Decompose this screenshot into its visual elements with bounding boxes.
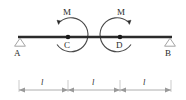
moment-arc-c [57, 18, 88, 52]
support-label-b: B [165, 49, 171, 58]
dimension-arrow-left-1 [68, 88, 74, 93]
point-marker-c [66, 35, 71, 40]
moment-label-d: M [117, 8, 125, 17]
moment-arrowhead-d [127, 20, 131, 24]
moment-label-c: M [63, 8, 71, 17]
dimension-arrow-right-1 [114, 88, 120, 93]
support-label-a: A [14, 49, 21, 58]
dimension-arrow-right-0 [62, 88, 68, 93]
support-a [15, 38, 26, 46]
beam-diagram-figure: M M C D A B l l l [0, 0, 186, 100]
point-marker-d [118, 35, 123, 40]
dimension-label-segment-a-c: l [41, 78, 43, 87]
dimension-label-segment-c-d: l [92, 78, 94, 87]
dimension-arrow-right-2 [165, 88, 171, 93]
dimension-arrow-left-0 [19, 88, 25, 93]
support-a-triangle [15, 38, 26, 46]
moment-arrowhead-c [57, 20, 61, 24]
dimension-label-segment-d-b: l [143, 78, 145, 87]
dimension-arrow-left-2 [120, 88, 126, 93]
support-b [165, 38, 176, 46]
moment-arc-c-path [57, 18, 88, 52]
support-b-triangle [165, 38, 176, 46]
point-label-c: C [64, 41, 70, 50]
point-label-d: D [116, 41, 123, 50]
